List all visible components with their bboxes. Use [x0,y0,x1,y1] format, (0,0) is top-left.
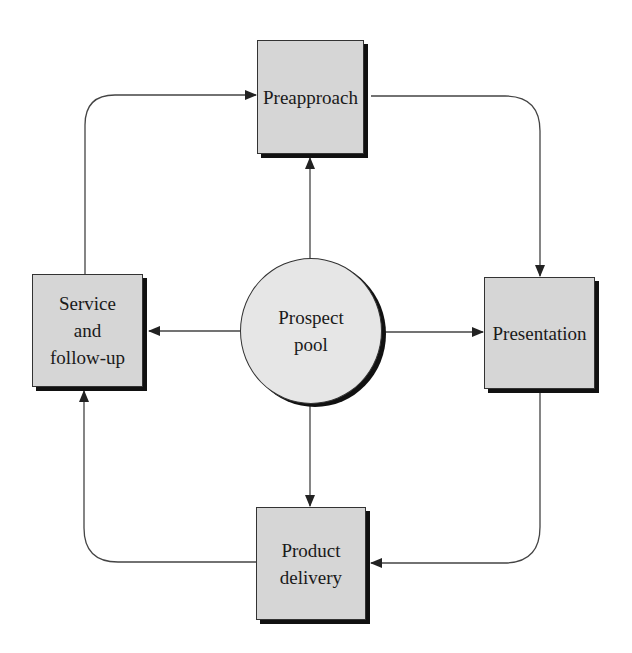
edge-product-delivery-to-service [84,391,256,562]
node-label: and [50,317,125,344]
node-label: follow-up [50,344,125,371]
node-label: Service [50,290,125,317]
circle-label: Prospect [278,304,343,331]
node-product-delivery: Product delivery [256,507,366,620]
node-label: Product [280,537,342,564]
node-prospect-pool: Prospect pool [240,258,382,404]
edge-preapproach-to-presentation [371,96,540,276]
node-label: Preapproach [263,84,358,111]
circle-label: pool [294,331,328,358]
node-label: delivery [280,564,342,591]
edge-presentation-to-product-delivery [371,393,540,563]
node-preapproach: Preapproach [257,40,364,154]
node-label: Presentation [493,320,587,347]
node-service-follow-up: Service and follow-up [32,274,143,387]
node-presentation: Presentation [484,277,595,389]
edge-service-to-preapproach [85,95,256,274]
